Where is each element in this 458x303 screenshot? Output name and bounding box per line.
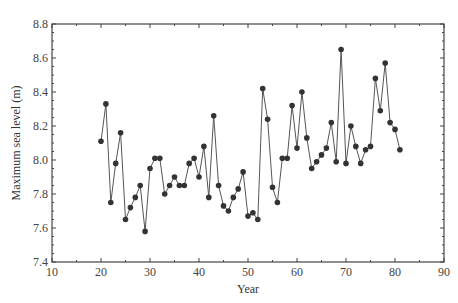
- data-point: [128, 205, 134, 211]
- line-chart: 102030405060708090 7.47.67.88.08.28.48.6…: [0, 0, 458, 303]
- data-point: [245, 213, 251, 219]
- data-point: [98, 139, 104, 145]
- y-tick-label: 7.6: [33, 221, 48, 235]
- x-tick-label: 30: [144, 265, 156, 279]
- data-point: [373, 76, 379, 82]
- data-point: [182, 183, 188, 189]
- data-point: [118, 130, 124, 136]
- y-tick-label: 8.6: [33, 51, 48, 65]
- y-tick-label: 8.8: [33, 17, 48, 31]
- y-tick-label: 8.2: [33, 119, 48, 133]
- x-axis-label: Year: [237, 282, 259, 296]
- data-point: [191, 156, 197, 162]
- y-tick-label: 7.8: [33, 187, 48, 201]
- data-point: [211, 113, 217, 119]
- data-point: [231, 195, 237, 201]
- data-point: [167, 183, 173, 189]
- plot-frame: [52, 24, 444, 262]
- data-point: [235, 186, 241, 192]
- data-point: [162, 191, 168, 197]
- data-point: [387, 120, 393, 126]
- x-tick-label: 40: [193, 265, 205, 279]
- data-point: [172, 174, 178, 180]
- data-point: [363, 147, 369, 153]
- data-point: [260, 86, 266, 92]
- data-point: [157, 156, 163, 162]
- x-tick-label: 20: [95, 265, 107, 279]
- data-point: [275, 200, 281, 206]
- y-axis-label: Maximum sea level (m): [9, 86, 23, 201]
- x-tick-label: 90: [438, 265, 450, 279]
- data-point: [221, 203, 227, 209]
- data-point: [137, 183, 143, 189]
- data-point: [142, 229, 148, 235]
- data-point: [216, 183, 222, 189]
- data-point: [353, 144, 359, 150]
- x-tick-label: 50: [242, 265, 254, 279]
- y-tick-labels: 7.47.67.88.08.28.48.68.8: [33, 17, 48, 269]
- data-point: [309, 166, 315, 172]
- data-point: [348, 123, 354, 129]
- data-point: [123, 217, 129, 223]
- data-point: [304, 135, 310, 141]
- data-point: [343, 161, 349, 167]
- data-point: [186, 161, 192, 167]
- x-tick-label: 80: [389, 265, 401, 279]
- data-point: [324, 145, 330, 151]
- data-point: [289, 103, 295, 109]
- x-tick-label: 70: [340, 265, 352, 279]
- data-point: [201, 144, 207, 150]
- data-point: [113, 161, 119, 167]
- data-point: [147, 166, 153, 172]
- data-point: [265, 116, 271, 122]
- data-line: [101, 50, 400, 232]
- data-point: [226, 208, 232, 214]
- y-tick-label: 8.0: [33, 153, 48, 167]
- data-point: [206, 195, 212, 201]
- data-point: [319, 152, 325, 158]
- data-point: [103, 101, 109, 107]
- axis-ticks: [52, 24, 444, 262]
- data-point: [382, 60, 388, 66]
- data-point: [294, 145, 300, 151]
- y-tick-label: 7.4: [33, 255, 48, 269]
- data-point: [299, 89, 305, 95]
- data-point: [152, 156, 158, 162]
- data-point: [284, 156, 290, 162]
- data-point: [338, 47, 344, 53]
- data-point: [270, 184, 276, 190]
- data-point: [108, 200, 114, 206]
- data-point: [240, 169, 246, 175]
- data-point: [280, 156, 286, 162]
- data-point: [255, 217, 261, 223]
- data-point: [392, 127, 398, 133]
- data-markers: [98, 47, 403, 235]
- data-point: [133, 195, 139, 201]
- data-point: [368, 144, 374, 150]
- data-point: [378, 108, 384, 114]
- x-tick-label: 60: [291, 265, 303, 279]
- data-point: [397, 147, 403, 153]
- data-point: [314, 159, 320, 165]
- data-point: [177, 183, 183, 189]
- data-point: [196, 174, 202, 180]
- x-tick-labels: 102030405060708090: [46, 265, 450, 279]
- data-point: [250, 210, 256, 216]
- data-point: [333, 159, 339, 165]
- data-point: [358, 161, 364, 167]
- data-point: [329, 120, 335, 126]
- y-tick-label: 8.4: [33, 85, 48, 99]
